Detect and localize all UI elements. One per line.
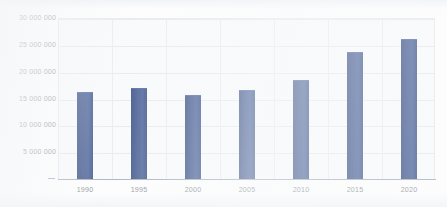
- y-axis: 30 000 000 25 000 000 20 000 000 15 000 …: [0, 0, 56, 207]
- y-tick-label: 25 000 000: [2, 41, 56, 49]
- x-tick-label-2020: 2020: [401, 186, 418, 194]
- bar-series: [58, 18, 435, 179]
- bar-2020: [401, 39, 417, 179]
- x-tick-label-2000: 2000: [185, 186, 202, 194]
- x-tick-label-2010: 2010: [293, 186, 310, 194]
- x-tick-label-2005: 2005: [239, 186, 256, 194]
- bar-2005: [239, 90, 255, 179]
- y-tick-label: 10 000 000: [2, 121, 56, 129]
- x-tick-label-1990: 1990: [77, 186, 94, 194]
- x-tick-label-2015: 2015: [347, 186, 364, 194]
- x-tick-label-1995: 1995: [131, 186, 148, 194]
- bar-1995: [131, 88, 147, 179]
- chart-screenshot: 30 000 000 25 000 000 20 000 000 15 000 …: [0, 0, 447, 207]
- scan-shadow-bottom: [0, 193, 447, 207]
- bar-2010: [293, 80, 309, 179]
- y-tick-zero-dash: [48, 178, 55, 179]
- x-axis-line: [58, 179, 436, 180]
- y-tick-label: 20 000 000: [2, 68, 56, 76]
- y-tick-label: 15 000 000: [2, 95, 56, 103]
- bar-1990: [77, 92, 93, 179]
- bar-2015: [347, 52, 363, 179]
- scan-shadow-top: [0, 0, 447, 9]
- y-tick-label: 5 000 000: [2, 148, 56, 156]
- bar-2000: [185, 95, 201, 179]
- y-tick-label: 30 000 000: [2, 14, 56, 22]
